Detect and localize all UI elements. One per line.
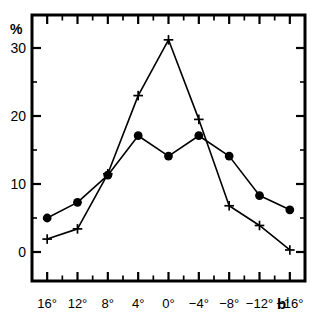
data-point-filled-circles-8 — [285, 205, 294, 214]
plot-area — [0, 0, 316, 323]
data-point-filled-circles-0 — [43, 214, 52, 223]
data-point-filled-circles-7 — [255, 191, 264, 200]
series-line-crosses — [47, 40, 290, 250]
series-line-filled-circles — [47, 136, 290, 218]
data-point-filled-circles-1 — [73, 198, 82, 207]
data-point-filled-circles-4 — [164, 152, 173, 161]
chart-figure: % 0102030 16°12°8°4°0°−4°−8°−12°−16° bI — [0, 0, 316, 323]
data-point-filled-circles-3 — [134, 131, 143, 140]
data-point-filled-circles-5 — [194, 131, 203, 140]
data-point-filled-circles-6 — [225, 152, 234, 161]
plot-frame — [32, 15, 305, 281]
